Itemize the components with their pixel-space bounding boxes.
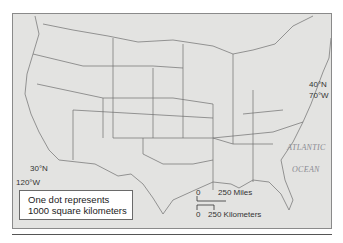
ocean-label-ocean: OCEAN (292, 165, 320, 174)
coord-label-70w: 70°W (309, 91, 329, 100)
ocean-label-atlantic: ATLANTIC (287, 143, 326, 152)
map-legend: One dot represents 1000 square kilometer… (19, 190, 133, 220)
coord-label-120w: 120°W (16, 178, 40, 187)
legend-line-1: One dot represents (28, 194, 132, 205)
coord-label-40n: 40°N (309, 80, 327, 89)
scale-km-zero: 0 (196, 210, 200, 219)
bottom-divider (12, 234, 332, 235)
coord-label-30n: 30°N (30, 164, 48, 173)
legend-line-2: 1000 square kilometers (28, 205, 132, 216)
scale-bar-miles (196, 196, 228, 202)
scale-km-label: 250 Kilometers (208, 210, 261, 219)
